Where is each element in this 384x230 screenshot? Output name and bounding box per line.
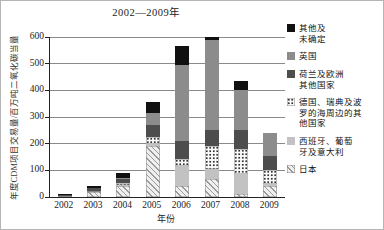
bar-segment-germany xyxy=(116,183,130,185)
y-tick-mark xyxy=(45,90,49,91)
legend-swatch-spain xyxy=(287,137,295,145)
legend-label: 德国、瑞典及波 罗的海周边的其 他国家 xyxy=(299,97,362,129)
bar-segment-other xyxy=(146,102,160,113)
bar-segment-japan xyxy=(58,196,72,197)
x-axis-label: 年份 xyxy=(121,212,211,225)
bar-segment-germany xyxy=(146,137,160,144)
y-tick-label: 200 xyxy=(16,138,44,148)
legend-swatch-netherlands xyxy=(287,70,295,78)
bar-segment-netherlands xyxy=(146,125,160,137)
bar-segment-germany xyxy=(205,146,219,169)
legend-item-netherlands: 荷兰及欧洲 其他国家 xyxy=(287,69,381,90)
bar-segment-netherlands xyxy=(205,130,219,146)
gridline xyxy=(50,37,285,38)
bar-segment-germany xyxy=(263,170,277,183)
bar-segment-spain xyxy=(205,169,219,179)
legend-item-japan: 日本 xyxy=(287,164,381,175)
y-tick-mark xyxy=(45,117,49,118)
y-tick-mark xyxy=(45,63,49,64)
bar-segment-other xyxy=(87,186,101,189)
bar-2004 xyxy=(116,173,130,197)
figure-frame: 2002—2009年 年度CDM项目交易量/百万吨二氧化碳当量 01002003… xyxy=(0,0,384,230)
bar-segment-germany xyxy=(234,149,248,174)
y-tick-mark xyxy=(45,37,49,38)
bar-segment-netherlands xyxy=(175,141,189,159)
legend-swatch-uk xyxy=(287,52,295,60)
bar-segment-germany xyxy=(87,191,101,192)
bar-segment-spain xyxy=(263,184,277,187)
legend-label: 西班牙、葡萄 牙及意大利 xyxy=(299,136,353,157)
bar-segment-other xyxy=(116,173,130,178)
bar-segment-netherlands xyxy=(87,188,101,191)
legend-label: 英国 xyxy=(299,51,317,62)
bar-segment-japan xyxy=(205,179,219,197)
bar-segment-uk xyxy=(175,65,189,141)
y-tick-label: 400 xyxy=(16,84,44,94)
legend-item-spain: 西班牙、葡萄 牙及意大利 xyxy=(287,136,381,157)
legend-swatch-other xyxy=(287,24,295,32)
bar-segment-uk xyxy=(234,90,248,131)
legend-item-germany: 德国、瑞典及波 罗的海周边的其 他国家 xyxy=(287,97,381,129)
gridline xyxy=(50,143,285,144)
bar-segment-japan xyxy=(234,194,248,197)
bar-segment-japan xyxy=(263,186,277,197)
legend-item-other: 其他及 未确定 xyxy=(287,23,381,44)
plot-area xyxy=(49,37,285,198)
bar-segment-spain xyxy=(146,144,160,146)
bar-segment-netherlands xyxy=(58,195,72,196)
bar-segment-netherlands xyxy=(234,130,248,149)
legend-swatch-japan xyxy=(287,165,295,173)
bar-segment-uk xyxy=(116,178,130,179)
gridline xyxy=(50,90,285,91)
bar-2007 xyxy=(205,37,219,197)
gridline xyxy=(50,117,285,118)
bar-segment-other xyxy=(175,46,189,64)
gridline xyxy=(50,170,285,171)
bar-segment-netherlands xyxy=(263,156,277,170)
legend-label: 其他及 未确定 xyxy=(299,23,326,44)
y-tick-mark xyxy=(45,197,49,198)
bar-segment-japan xyxy=(116,186,130,197)
gridline xyxy=(50,63,285,64)
bar-segment-germany xyxy=(175,159,189,166)
legend-swatch-germany xyxy=(287,98,295,106)
bar-2003 xyxy=(87,186,101,197)
y-tick-label: 300 xyxy=(16,111,44,121)
y-tick-mark xyxy=(45,143,49,144)
bar-segment-uk xyxy=(146,113,160,125)
bar-segment-netherlands xyxy=(116,179,130,183)
bar-segment-japan xyxy=(146,146,160,197)
bar-2005 xyxy=(146,102,160,197)
legend-label: 荷兰及欧洲 其他国家 xyxy=(299,69,344,90)
legend-item-uk: 英国 xyxy=(287,51,381,62)
bar-segment-other xyxy=(205,37,219,40)
bar-segment-uk xyxy=(205,40,219,130)
y-tick-label: 600 xyxy=(16,31,44,41)
bar-segment-other xyxy=(234,81,248,90)
y-tick-label: 100 xyxy=(16,164,44,174)
bar-segment-spain xyxy=(116,185,130,186)
bar-segment-japan xyxy=(175,186,189,197)
chart-title: 2002—2009年 xyxy=(41,4,251,19)
y-tick-label: 500 xyxy=(16,58,44,68)
y-tick-label: 0 xyxy=(16,191,44,201)
bar-segment-spain xyxy=(175,166,189,186)
bar-segment-other xyxy=(58,194,72,195)
bar-segment-uk xyxy=(263,133,277,156)
bar-2006 xyxy=(175,46,189,197)
x-tick-label: 2009 xyxy=(252,200,286,210)
legend: 其他及 未确定英国荷兰及欧洲 其他国家德国、瑞典及波 罗的海周边的其 他国家西班… xyxy=(287,23,381,175)
bar-segment-spain xyxy=(234,174,248,194)
bar-2008 xyxy=(234,81,248,197)
bar-2002 xyxy=(58,194,72,197)
bar-segment-japan xyxy=(87,192,101,197)
y-tick-mark xyxy=(45,170,49,171)
legend-label: 日本 xyxy=(299,164,317,175)
bar-2009 xyxy=(263,133,277,197)
